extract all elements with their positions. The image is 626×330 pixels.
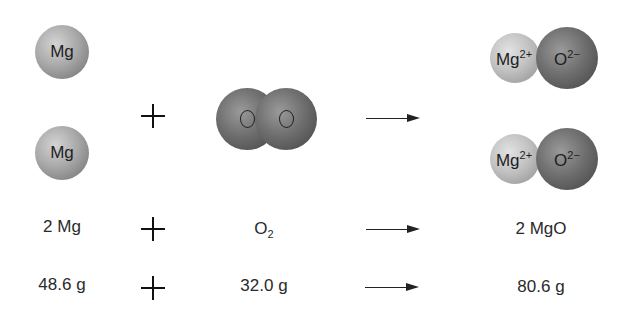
formula-reactant-mg: 2 Mg xyxy=(43,217,81,237)
oxygen-atom-label: O xyxy=(240,110,255,128)
oxide-ion-label: O2− xyxy=(554,151,580,171)
plus-icon xyxy=(141,276,165,300)
oxygen-atom-label: O xyxy=(279,110,294,128)
reaction-arrow-icon xyxy=(366,225,420,235)
mass-reactant-o2: 32.0 g xyxy=(240,276,287,296)
oxygen-atom-2: O xyxy=(255,88,317,150)
mg-atom-1: Mg xyxy=(35,25,89,79)
reaction-arrow-icon xyxy=(366,114,420,124)
oxide-ion-label: O2− xyxy=(554,50,580,70)
mg-ion-label: Mg2+ xyxy=(496,151,532,171)
mg-ion-label: Mg2+ xyxy=(496,50,532,70)
plus-icon xyxy=(141,217,165,241)
plus-icon xyxy=(141,104,165,128)
mg-atom-2: Mg xyxy=(35,126,89,180)
mg-atom-label: Mg xyxy=(50,143,74,163)
mass-reactant-mg: 48.6 g xyxy=(38,275,85,295)
mg-atom-label: Mg xyxy=(50,42,74,62)
formula-product-mgo: 2 MgO xyxy=(515,219,566,239)
mass-product-mgo: 80.6 g xyxy=(517,277,564,297)
reaction-arrow-icon xyxy=(365,283,419,293)
formula-reactant-o2: O2 xyxy=(254,219,273,239)
